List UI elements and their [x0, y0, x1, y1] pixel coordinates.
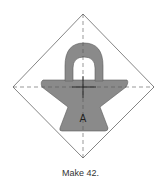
basket-handle [65, 43, 103, 81]
caption: Make 42. [0, 168, 161, 178]
block-figure: A [0, 0, 161, 188]
basket-diagram: A [0, 0, 161, 188]
piece-label: A [80, 113, 87, 124]
